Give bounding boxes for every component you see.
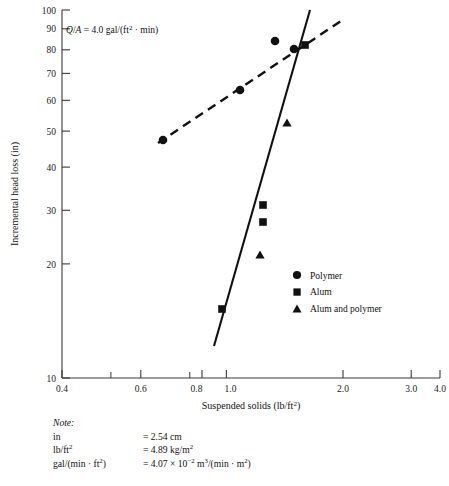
y-tick-label: 10 xyxy=(47,374,57,384)
y-tick-label: 30 xyxy=(47,206,57,216)
data-point xyxy=(259,201,267,209)
note-row: in = 2.54 cm xyxy=(53,430,251,444)
y-tick-label: 50 xyxy=(47,127,57,137)
y-tick-label: 60 xyxy=(47,96,57,106)
data-point xyxy=(271,37,280,46)
y-tick-label: 80 xyxy=(47,45,57,55)
y-tick-label: 100 xyxy=(42,6,57,16)
note-row: gal/(min · ft2) = 4.07 × 10−2 m3/(min · … xyxy=(53,457,251,471)
data-point xyxy=(255,251,264,259)
x-axis-title: Suspended solids (lb/ft2) xyxy=(202,400,301,412)
x-tick-label: 1.0 xyxy=(225,384,237,394)
x-axis-tick-labels: 0.4 0.6 0.8 1.0 2.0 3.0 4.0 xyxy=(56,384,446,394)
note-unit: gal/(min · ft2) xyxy=(53,457,143,471)
note-unit: lb/ft2 xyxy=(53,443,143,457)
data-point xyxy=(301,41,309,49)
y-tick-label: 40 xyxy=(47,163,57,173)
x-tick-label: 4.0 xyxy=(434,384,446,394)
chart-svg: 100 90 80 70 60 50 40 30 20 10 0.4 0.6 xyxy=(0,0,449,486)
data-point xyxy=(290,45,299,54)
y-tick-label: 70 xyxy=(47,69,57,79)
note-table: in = 2.54 cm lb/ft2 = 4.89 kg/m2 gal/(mi… xyxy=(53,430,251,471)
series-polymer-markers xyxy=(159,37,299,145)
data-point xyxy=(159,136,168,145)
y-axis-title: Incremental head loss (in) xyxy=(9,142,21,246)
legend: Polymer Alum Alum and polymer xyxy=(293,271,383,315)
axes xyxy=(62,10,440,378)
y-axis-tick-labels: 100 90 80 70 60 50 40 30 20 10 xyxy=(42,6,57,384)
note-row: lb/ft2 = 4.89 kg/m2 xyxy=(53,443,251,457)
note-header: Note: xyxy=(53,416,383,430)
data-point xyxy=(218,305,226,313)
legend-square-icon xyxy=(293,288,300,295)
note-block: Note: in = 2.54 cm lb/ft2 = 4.89 kg/m2 g… xyxy=(53,416,383,470)
data-point xyxy=(259,218,267,226)
figure-container: 100 90 80 70 60 50 40 30 20 10 0.4 0.6 xyxy=(0,0,449,486)
y-tick-label: 90 xyxy=(47,24,57,34)
legend-label-alum: Alum xyxy=(310,287,332,297)
legend-label-polymer: Polymer xyxy=(310,271,343,281)
x-tick-label: 0.6 xyxy=(135,384,147,394)
data-point xyxy=(282,119,291,127)
y-axis-ticks xyxy=(62,10,70,378)
x-tick-label: 0.4 xyxy=(56,384,68,394)
polymer-trend-line xyxy=(158,21,341,143)
x-tick-label: 3.0 xyxy=(405,384,417,394)
legend-label-alum-and-polymer: Alum and polymer xyxy=(310,304,383,314)
legend-circle-icon xyxy=(293,271,301,279)
legend-triangle-icon xyxy=(293,305,302,313)
plot-annotation: Q/A = 4.0 gal/(ft2 · min) xyxy=(66,24,158,36)
x-tick-label: 2.0 xyxy=(337,384,349,394)
note-value: = 4.07 × 10−2 m3/(min · m2) xyxy=(143,457,251,471)
note-value: = 4.89 kg/m2 xyxy=(143,443,251,457)
x-axis-ticks xyxy=(62,370,440,378)
note-unit: in xyxy=(53,430,143,444)
y-tick-label: 20 xyxy=(47,260,57,270)
x-tick-label: 0.8 xyxy=(191,384,203,394)
note-value: = 2.54 cm xyxy=(143,430,251,444)
data-point xyxy=(236,86,245,95)
